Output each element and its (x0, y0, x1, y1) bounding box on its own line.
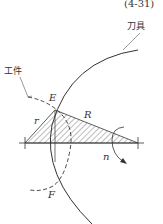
workpiece-leader (20, 77, 32, 97)
rotation-arrow (112, 127, 124, 162)
workpiece-arc (28, 97, 71, 191)
rotation-n-label: n (103, 151, 109, 162)
hatched-triangle (25, 110, 138, 143)
point-f-label: F (47, 189, 56, 200)
equation-number: (4-31) (124, 0, 154, 9)
tool-leader (123, 33, 140, 50)
rotation-arrowhead-icon (120, 158, 127, 164)
cutting-geometry-diagram: (4-31) 刀具 工件 E F r R n (0, 0, 163, 224)
point-e-label: E (48, 92, 57, 103)
radius-r-label: r (34, 115, 40, 126)
workpiece-label: 工件 (4, 65, 22, 76)
tool-label: 刀具 (127, 21, 145, 31)
radius-R-label: R (83, 109, 92, 120)
